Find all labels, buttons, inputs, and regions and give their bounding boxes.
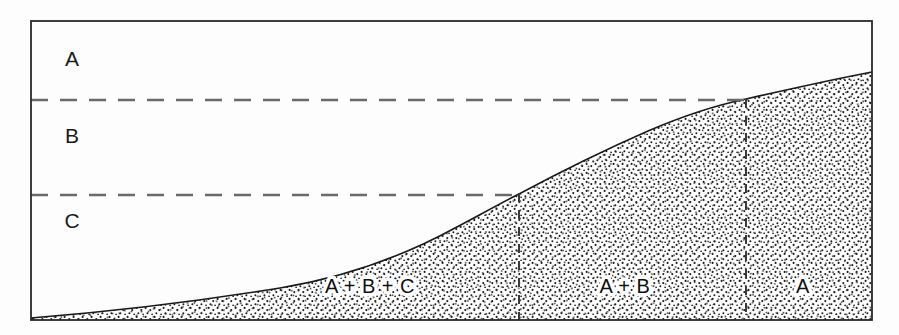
zone-label-a: A	[65, 47, 79, 70]
deposit-label-ab: A + B	[600, 275, 651, 297]
deposit-label-a: A	[796, 275, 810, 297]
wing-symbol-b-flat	[136, 127, 248, 152]
diagram-canvas: A B C A + B + C A + B + C A + B A + B A …	[0, 0, 899, 335]
wing-symbol-a-raised	[299, 36, 351, 79]
deposit-label-abc: A + B + C	[325, 275, 415, 297]
zone-label-c: C	[64, 209, 79, 232]
wing-symbol-c-drooped	[102, 210, 154, 241]
zonation-diagram: A B C A + B + C A + B + C A + B A + B A …	[0, 0, 899, 335]
zone-label-b: B	[65, 124, 79, 147]
